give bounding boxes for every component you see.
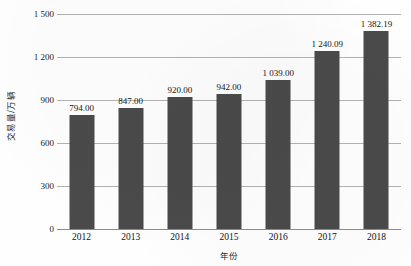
x-tick-label-2014: 2014: [170, 232, 189, 242]
x-tick-label-2015: 2015: [220, 232, 239, 242]
plot-area: 794.00847.00920.00942.001 039.001 240.09…: [57, 14, 401, 229]
bar-value-label-2016: 1 039.00: [262, 68, 294, 78]
bar-slot: 794.00: [57, 14, 106, 229]
x-tick-label-2013: 2013: [121, 232, 140, 242]
x-axis-title: 年份: [57, 249, 401, 261]
bar-value-label-2013: 847.00: [118, 96, 143, 106]
bar-value-label-2017: 1 240.09: [312, 39, 344, 49]
bar-2016[interactable]: [266, 80, 291, 229]
bar-slot: 1 382.19: [352, 14, 401, 229]
y-tick-label-600: 600: [2, 138, 54, 148]
y-tick-label-1500: 1 500: [2, 9, 54, 19]
y-tick-label-1200: 1 200: [2, 52, 54, 62]
bar-2014[interactable]: [167, 97, 192, 229]
bar-chart: 交易量/万辆 03006009001 2001 500 794.00847.00…: [0, 0, 411, 266]
gridline-0: [57, 229, 401, 230]
x-tick-label-2016: 2016: [269, 232, 288, 242]
bar-2017[interactable]: [315, 51, 340, 229]
bar-value-label-2018: 1 382.19: [361, 19, 393, 29]
x-axis-tick-labels: 2012201320142015201620172018: [57, 232, 401, 248]
bar-value-label-2012: 794.00: [69, 103, 94, 113]
x-tick-label-2017: 2017: [318, 232, 337, 242]
bar-value-label-2014: 920.00: [167, 85, 192, 95]
y-tick-label-900: 900: [2, 95, 54, 105]
bar-slot: 942.00: [204, 14, 253, 229]
bar-slot: 1 240.09: [303, 14, 352, 229]
bar-2012[interactable]: [69, 115, 94, 229]
y-axis-tick-labels: 03006009001 2001 500: [0, 14, 54, 229]
bar-2013[interactable]: [118, 108, 143, 229]
bar-value-label-2015: 942.00: [217, 82, 242, 92]
bar-2015[interactable]: [216, 94, 241, 229]
x-tick-label-2012: 2012: [72, 232, 91, 242]
bar-slot: 920.00: [155, 14, 204, 229]
y-tick-label-0: 0: [2, 224, 54, 234]
y-tick-label-300: 300: [2, 181, 54, 191]
bar-2018[interactable]: [364, 31, 389, 229]
bar-slot: 847.00: [106, 14, 155, 229]
x-tick-label-2018: 2018: [367, 232, 386, 242]
bar-slot: 1 039.00: [254, 14, 303, 229]
